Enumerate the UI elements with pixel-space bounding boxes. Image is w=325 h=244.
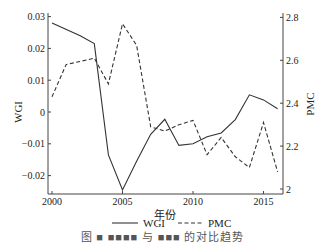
y-axis-right-title: PMC xyxy=(304,92,316,115)
y-right-tick-label: 2.4 xyxy=(286,98,299,109)
y-left-tick-label: 0.02 xyxy=(28,43,46,54)
series-wgi-line xyxy=(52,23,278,190)
y-right-tick-label: 2.8 xyxy=(286,12,299,23)
y-left-tick-label: 0 xyxy=(40,107,45,118)
y-left-tick-label: 0.03 xyxy=(28,11,46,22)
y-right-tick-label: 2.6 xyxy=(286,55,299,66)
series-pmc-line xyxy=(52,24,278,172)
x-tick-label: 2015 xyxy=(254,196,274,207)
figure-caption: 图 ■ ■■■■ 与 ■■■ 的对比趋势 xyxy=(0,228,325,244)
axes: 0.030.020.010−0.01−0.022.82.62.42.222000… xyxy=(22,11,299,207)
y-left-tick-label: −0.02 xyxy=(22,170,45,181)
x-tick-label: 2010 xyxy=(183,196,203,207)
y-left-tick-label: 0.01 xyxy=(28,75,46,86)
y-right-tick-label: 2 xyxy=(286,184,291,195)
dual-axis-line-chart: 0.030.020.010−0.01−0.022.82.62.42.222000… xyxy=(0,0,325,244)
y-left-tick-label: −0.01 xyxy=(22,138,45,149)
y-axis-left-title: WGI xyxy=(12,101,24,123)
x-tick-label: 2005 xyxy=(113,196,133,207)
plot-area xyxy=(52,23,278,190)
x-tick-label: 2000 xyxy=(42,196,62,207)
y-right-tick-label: 2.2 xyxy=(286,141,299,152)
